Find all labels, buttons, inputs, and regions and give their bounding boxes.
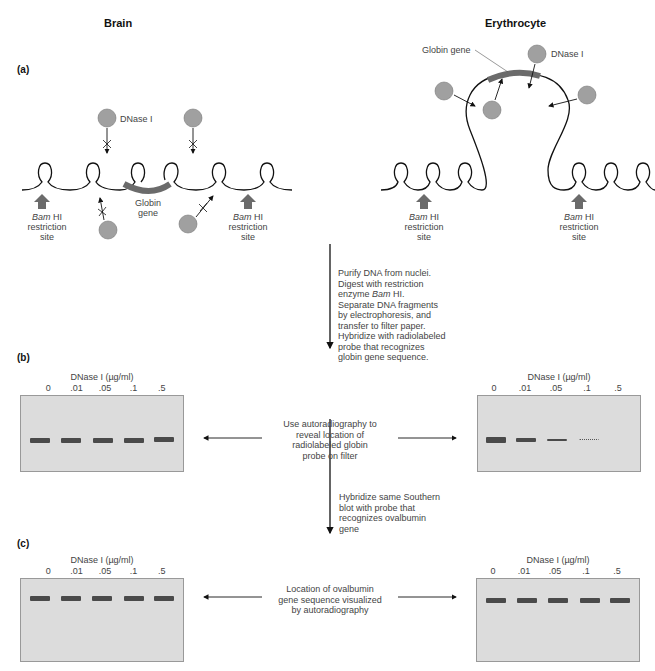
brain-gel-b: DNase I (µg/ml) 0 .01 .05 .1 .5: [20, 372, 184, 472]
lane-label: .5: [148, 566, 176, 576]
band-faint: [579, 439, 599, 441]
band: [486, 598, 506, 603]
lane-label: .05: [540, 566, 570, 576]
lane-label: .01: [510, 383, 540, 393]
lane-label: .05: [91, 383, 119, 393]
gel-title: DNase I (µg/ml): [20, 555, 184, 565]
band: [61, 438, 81, 443]
gel-membrane: [20, 395, 184, 472]
band: [93, 438, 113, 443]
brain-chromatin: [22, 163, 292, 190]
brain-restriction-right-label: Bam HI restriction site: [223, 212, 273, 242]
lane-label: 0: [478, 566, 508, 576]
brain-restriction-left-label: Bam HI restriction site: [22, 212, 72, 242]
band-medium: [516, 438, 536, 442]
lane-label: 0: [34, 383, 62, 393]
band: [124, 438, 144, 443]
lane-label: .05: [91, 566, 119, 576]
gel-membrane: [477, 395, 641, 472]
gel-title: DNase I (µg/ml): [477, 372, 641, 382]
band-weak: [547, 439, 567, 441]
lane-label: .1: [119, 566, 147, 576]
brain-dnase-label: DNase I: [120, 114, 153, 124]
gel-title: DNase I (µg/ml): [476, 555, 640, 565]
lane-label: .01: [62, 566, 90, 576]
lane-label: .5: [602, 566, 632, 576]
lane-label: .1: [572, 383, 602, 393]
band: [580, 598, 600, 603]
step-purify-text: Purify DNA from nuclei. Digest with rest…: [338, 268, 498, 363]
band: [92, 596, 112, 601]
band: [124, 596, 144, 601]
gel-membrane: [476, 578, 640, 662]
lane-label: 0: [34, 566, 62, 576]
band: [517, 598, 537, 603]
lane-label: .1: [571, 566, 601, 576]
erythrocyte-chromatin: [381, 74, 655, 190]
erythrocyte-globin-label: Globin gene: [422, 45, 471, 55]
erythrocyte-dnase-label: DNase I: [551, 49, 584, 59]
brain-dnase: [98, 109, 213, 239]
band: [548, 598, 568, 603]
lane-label: .05: [541, 383, 571, 393]
erythrocyte-restriction-right-label: Bam HI restriction site: [554, 212, 604, 242]
gel-membrane: [20, 578, 184, 662]
step-autoradiography-text: Use autoradiography to reveal location o…: [265, 419, 395, 461]
lane-label: .5: [603, 383, 633, 393]
lane-label: .01: [62, 383, 90, 393]
erythrocyte-gel-c: DNase I (µg/ml) 0 .01 .05 .1 .5: [476, 555, 640, 662]
erythrocyte-restriction-arrows: [416, 194, 587, 209]
lane-label: .5: [148, 383, 176, 393]
erythrocyte-restriction-left-label: Bam HI restriction site: [399, 212, 449, 242]
brain-globin-gene: [124, 184, 170, 191]
band: [610, 598, 630, 603]
band-strong: [486, 437, 506, 443]
band: [30, 438, 50, 443]
band: [154, 596, 174, 601]
step-ovalbumin-location-text: Location of ovalbumin gene sequence visu…: [262, 584, 398, 616]
gel-title: DNase I (µg/ml): [20, 372, 184, 382]
lane-label: 0: [479, 383, 509, 393]
band: [61, 596, 81, 601]
step-hybridize-ovalbumin-text: Hybridize same Southern blot with probe …: [339, 492, 489, 534]
lane-label: .01: [509, 566, 539, 576]
band: [154, 437, 174, 442]
lane-label: .1: [119, 383, 147, 393]
brain-gel-c: DNase I (µg/ml) 0 .01 .05 .1 .5: [20, 555, 184, 662]
band: [30, 596, 50, 601]
brain-globin-label: Globin gene: [128, 198, 168, 218]
erythrocyte-gel-b: DNase I (µg/ml) 0 .01 .05 .1 .5: [477, 372, 641, 472]
